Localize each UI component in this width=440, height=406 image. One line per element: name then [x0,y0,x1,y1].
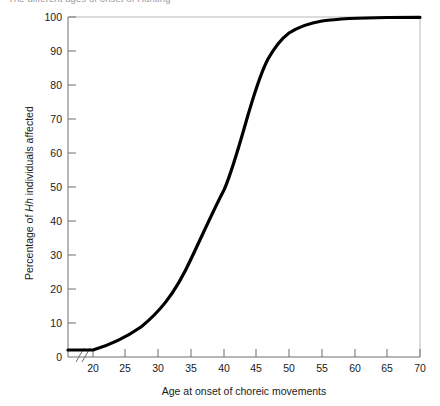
y-axis-title: Percentage of Hh individuals affected [23,106,35,280]
y-axis-title-suffix: individuals affected [23,106,35,198]
x-axis-ticks [93,349,420,357]
x-tick-label: 65 [381,362,393,374]
y-tick-label: 90 [50,45,62,57]
y-axis-title-prefix: Percentage of [23,212,35,280]
y-tick-label: 20 [50,283,62,295]
y-tick-label: 100 [44,11,62,23]
y-tick-label: 30 [50,249,62,261]
x-tick-label: 55 [316,362,328,374]
x-tick-label: 40 [218,362,230,374]
x-tick-label: 45 [250,362,262,374]
y-axis-ticks [68,17,76,323]
x-axis-tick-labels: 20 25 30 35 40 45 50 55 60 65 70 [87,362,426,374]
y-axis-tick-labels: 100 90 80 70 60 50 40 30 20 10 0 [44,11,62,363]
chart-plot-area: 100 90 80 70 60 50 40 30 20 10 0 [0,0,440,406]
y-tick-label: 60 [50,147,62,159]
y-tick-label: 40 [50,215,62,227]
x-tick-label: 30 [152,362,164,374]
y-tick-label: 10 [50,317,62,329]
x-tick-label: 70 [414,362,426,374]
x-tick-label: 20 [87,362,99,374]
x-tick-label: 35 [185,362,197,374]
x-tick-label: 50 [283,362,295,374]
x-axis-title: Age at onset of choreic movements [162,385,327,397]
x-tick-label: 25 [119,362,131,374]
x-tick-label: 60 [349,362,361,374]
y-tick-label: 0 [56,351,62,363]
onset-curve [68,17,420,350]
y-tick-label: 50 [50,181,62,193]
figure-container: The different ages of onset of Hunting 1… [0,0,440,406]
axis-frame [68,17,420,357]
y-tick-label: 80 [50,79,62,91]
y-tick-label: 70 [50,113,62,125]
y-axis-title-gene: Hh [23,198,35,212]
